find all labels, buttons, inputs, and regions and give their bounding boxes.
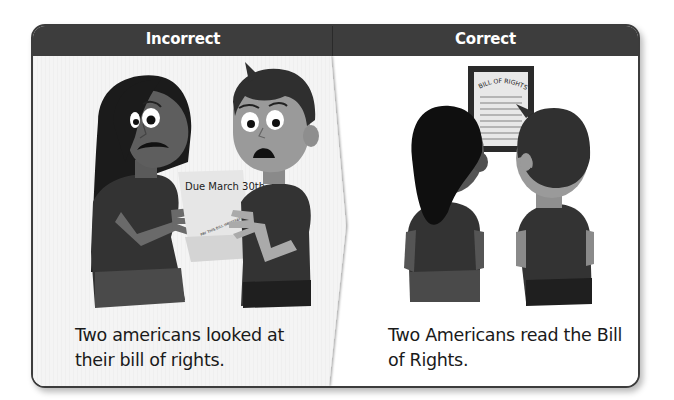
two-people-reading-bill-of-rights-illustration: BILL OF RIGHTS [388,62,628,312]
incorrect-caption: Two americans looked at their bill of ri… [75,323,315,373]
incorrect-caption-line-1: Two americans looked at [75,323,315,348]
correct-caption: Two Americans read the Bill of Rights. [388,323,628,373]
comparison-figure: Incorrect Correct [0,0,674,400]
bill-due-text: Due March 30th [185,181,265,192]
correct-caption-line-1: Two Americans read the Bill [388,323,628,348]
correct-caption-line-2: of Rights. [388,348,628,373]
incorrect-caption-line-2: their bill of rights. [75,348,315,373]
correct-heading: Correct [333,30,638,48]
header-bar: Incorrect Correct [33,26,638,56]
incorrect-heading: Incorrect [33,30,333,48]
comparison-frame: Incorrect Correct [31,24,640,388]
two-people-reading-bill-illustration: Due March 30th PAY THIS BILL IMMEDIATELY [73,62,333,312]
